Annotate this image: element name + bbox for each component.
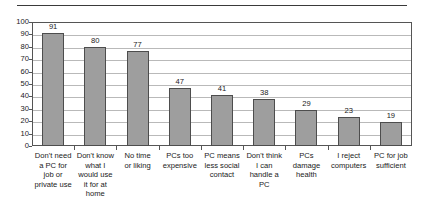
bar (169, 88, 191, 146)
x-axis-category-label-line: what I (74, 161, 116, 171)
x-axis-category-label-line: I can (243, 161, 285, 171)
x-axis-category-label-line: less social (201, 161, 243, 171)
x-axis-tick (370, 146, 371, 150)
x-axis-tick (328, 146, 329, 150)
bar-slot: 80 (74, 22, 116, 146)
x-axis-category-label-line: PCs (285, 151, 327, 161)
x-axis-category-label-line: it for at (74, 180, 116, 190)
bar-value-label: 41 (218, 85, 226, 93)
x-axis-category-label: No timeor liking (116, 151, 158, 170)
x-axis-category-label-line: PC means (201, 151, 243, 161)
y-axis-tick-label: 30 (0, 105, 29, 113)
x-axis-ticks (32, 146, 412, 150)
bar (338, 117, 360, 146)
x-axis-tick (243, 146, 244, 150)
x-axis-labels: Don't needa PC forjob orprivate useDon't… (32, 151, 412, 211)
bars-container: 918077474138292319 (32, 22, 412, 146)
bar-value-label: 19 (387, 112, 395, 120)
y-axis-tick-label: 40 (0, 92, 29, 100)
bar-value-label: 77 (133, 41, 141, 49)
bar-slot: 23 (328, 22, 370, 146)
x-axis-category-label-line: a PC for (32, 161, 74, 171)
x-axis-tick (159, 146, 160, 150)
bar-value-label: 47 (176, 78, 184, 86)
bar-value-label: 23 (344, 107, 352, 115)
bar (42, 33, 64, 146)
bar (211, 95, 233, 146)
bar (253, 99, 275, 146)
y-axis-tick-label: 50 (0, 80, 29, 88)
y-axis-tick-label: 80 (0, 43, 29, 51)
x-axis-tick (116, 146, 117, 150)
x-axis-category-label-line: damage (285, 161, 327, 171)
y-axis-tick-label: 90 (0, 30, 29, 38)
x-axis-category-label-line: computers (328, 161, 370, 171)
y-axis-tick-label: 70 (0, 55, 29, 63)
x-axis-category-label-line: home (74, 189, 116, 199)
bar-chart: 0102030405060708090100 91807747413829231… (0, 0, 423, 215)
y-axis-tick-label: 100 (0, 18, 29, 26)
x-axis-category-label-line: or liking (116, 161, 158, 171)
x-axis-category-label: PC for jobsufficient (370, 151, 412, 170)
x-axis-category-label: I rejectcomputers (328, 151, 370, 170)
x-axis-category-label-line: handle a (243, 170, 285, 180)
x-axis-tick (74, 146, 75, 150)
x-axis-tick (285, 146, 286, 150)
y-axis: 0102030405060708090100 (0, 22, 29, 146)
bar-slot: 29 (285, 22, 327, 146)
bar-slot: 91 (32, 22, 74, 146)
x-axis-tick (201, 146, 202, 150)
x-axis-category-label-line: I reject (328, 151, 370, 161)
bar-slot: 77 (116, 22, 158, 146)
bar-value-label: 38 (260, 89, 268, 97)
x-axis-category-label-line: Don't think (243, 151, 285, 161)
x-axis-category-label: Don't thinkI canhandle aPC (243, 151, 285, 189)
x-axis-category-label-line: PC (243, 180, 285, 190)
bar (295, 110, 317, 146)
bar (380, 122, 402, 146)
x-axis-category-label-line: No time (116, 151, 158, 161)
y-axis-tick-label: 10 (0, 130, 29, 138)
bar-slot: 47 (159, 22, 201, 146)
x-axis-category-label: PCs tooexpensive (159, 151, 201, 170)
x-axis-category-label-line: private use (32, 180, 74, 190)
bar-value-label: 29 (302, 100, 310, 108)
x-axis-category-label: Don't knowwhat Iwould useit for athome (74, 151, 116, 199)
bar (127, 51, 149, 146)
x-axis-category-label: PCsdamagehealth (285, 151, 327, 180)
x-axis-category-label-line: PCs too (159, 151, 201, 161)
x-axis-category-label-line: sufficient (370, 161, 412, 171)
bar-slot: 41 (201, 22, 243, 146)
bar-value-label: 91 (49, 23, 57, 31)
bar-slot: 19 (370, 22, 412, 146)
x-axis-category-label-line: expensive (159, 161, 201, 171)
x-axis-category-label-line: job or (32, 170, 74, 180)
y-axis-tick-label: 20 (0, 117, 29, 125)
x-axis-category-label-line: health (285, 170, 327, 180)
y-axis-tick-label: 0 (0, 142, 29, 150)
x-axis-category-label-line: Don't need (32, 151, 74, 161)
chart-page: 0102030405060708090100 91807747413829231… (0, 0, 423, 215)
y-axis-tick-label: 60 (0, 68, 29, 76)
x-axis-category-label-line: PC for job (370, 151, 412, 161)
x-axis-category-label-line: would use (74, 170, 116, 180)
x-axis-category-label-line: Don't know (74, 151, 116, 161)
bar (84, 47, 106, 146)
bar-slot: 38 (243, 22, 285, 146)
x-axis-category-label-line: contact (201, 170, 243, 180)
bar-value-label: 80 (91, 37, 99, 45)
x-axis-category-label: Don't needa PC forjob orprivate use (32, 151, 74, 189)
x-axis-category-label: PC meansless socialcontact (201, 151, 243, 180)
